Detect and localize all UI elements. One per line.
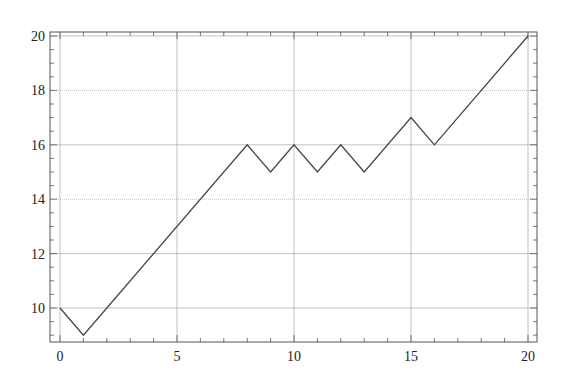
- plot-frame: [50, 32, 537, 342]
- y-tick-label: 10: [31, 301, 45, 316]
- x-tick-label: 5: [174, 349, 181, 364]
- line-chart: 05101520 101214161820: [0, 0, 567, 388]
- axis-ticks: [50, 32, 537, 342]
- x-tick-label: 10: [287, 349, 301, 364]
- y-axis-labels: 101214161820: [31, 29, 45, 316]
- x-tick-label: 0: [57, 349, 64, 364]
- y-tick-label: 20: [31, 29, 45, 44]
- x-axis-labels: 05101520: [57, 349, 536, 364]
- x-tick-label: 15: [404, 349, 418, 364]
- grid-lines: [50, 32, 537, 342]
- y-tick-label: 14: [31, 192, 45, 207]
- y-tick-label: 18: [31, 83, 45, 98]
- y-tick-label: 12: [31, 247, 45, 262]
- y-tick-label: 16: [31, 138, 45, 153]
- x-tick-label: 20: [521, 349, 535, 364]
